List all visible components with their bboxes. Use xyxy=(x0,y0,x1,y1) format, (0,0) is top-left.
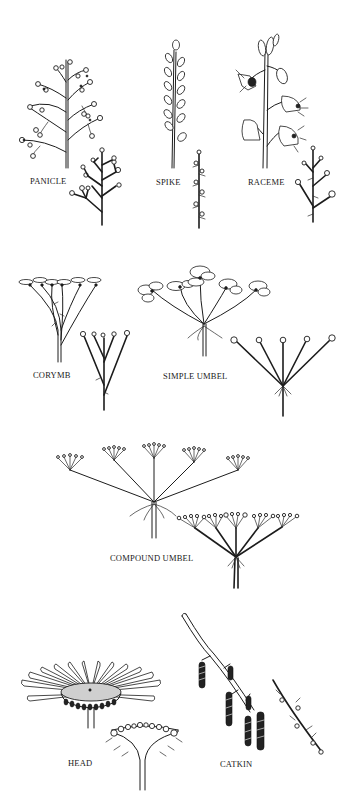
compound-umbel-illustration xyxy=(57,443,250,538)
head-schematic xyxy=(106,722,182,790)
inflorescence-diagram: PANICLE SPIKE RACEME CORYMB SIMPLE UMBEL… xyxy=(0,0,353,804)
catkin-schematic xyxy=(273,680,323,754)
umbellet xyxy=(57,443,250,470)
catkin-illustration xyxy=(182,613,264,750)
simple-umbel-illustration xyxy=(138,266,270,356)
head-illustration xyxy=(21,661,160,728)
label-head: HEAD xyxy=(68,758,92,768)
spike-schematic xyxy=(193,150,205,228)
label-panicle: PANICLE xyxy=(30,176,67,186)
corymb-schematic xyxy=(80,330,129,410)
panicle-illustration xyxy=(19,60,102,168)
raceme-illustration xyxy=(236,34,308,168)
label-compound-umbel: COMPOUND UMBEL xyxy=(110,553,193,563)
spike-illustration xyxy=(162,40,188,168)
compound-umbel-schematic xyxy=(177,512,299,588)
label-corymb: CORYMB xyxy=(33,370,71,380)
label-catkin: CATKIN xyxy=(220,759,252,769)
simple-umbel-schematic xyxy=(231,335,335,416)
diagram-drawings xyxy=(0,0,353,804)
label-simple-umbel: SIMPLE UMBEL xyxy=(163,371,228,381)
label-raceme: RACEME xyxy=(248,177,285,187)
panicle-schematic xyxy=(70,148,122,225)
raceme-schematic xyxy=(295,146,335,222)
label-spike: SPIKE xyxy=(156,177,181,187)
